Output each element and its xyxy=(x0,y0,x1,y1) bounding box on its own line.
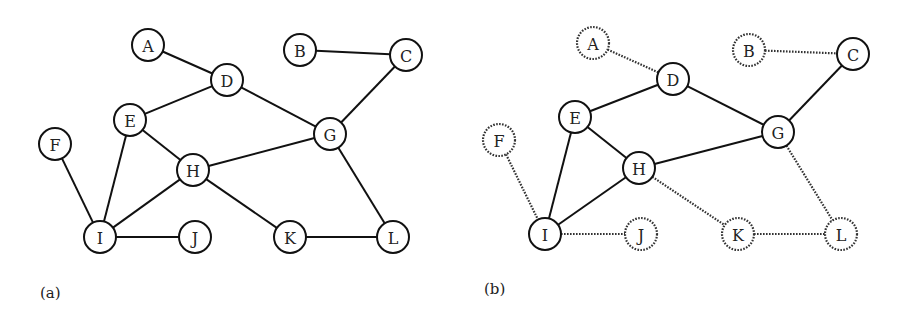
edge-E-H xyxy=(588,127,627,158)
node-C: C xyxy=(390,39,422,71)
node-K: K xyxy=(722,218,754,250)
edge-G-H xyxy=(654,136,762,164)
edge-B-C xyxy=(765,51,837,54)
svg-text:B: B xyxy=(743,42,755,61)
node-D: D xyxy=(657,63,689,95)
svg-text:E: E xyxy=(569,109,581,128)
edge-H-I xyxy=(558,177,626,225)
panel-label-b: (b) xyxy=(484,280,505,298)
svg-text:J: J xyxy=(190,229,198,248)
edge-D-E xyxy=(145,86,212,114)
svg-text:C: C xyxy=(847,46,859,65)
node-I: I xyxy=(84,221,116,253)
svg-text:H: H xyxy=(632,160,646,179)
edge-G-H xyxy=(208,138,314,166)
node-L: L xyxy=(377,221,409,253)
edge-H-I xyxy=(113,179,180,227)
node-F: F xyxy=(483,124,515,156)
svg-text:G: G xyxy=(324,126,337,145)
node-H: H xyxy=(623,152,655,184)
node-E: E xyxy=(114,104,146,136)
svg-text:E: E xyxy=(124,112,136,131)
node-F: F xyxy=(39,128,71,160)
edge-E-I xyxy=(549,132,571,218)
edge-F-I xyxy=(506,154,538,219)
node-G: G xyxy=(762,116,794,148)
edge-E-I xyxy=(104,135,126,221)
node-H: H xyxy=(177,154,209,186)
edge-E-H xyxy=(143,130,181,160)
edge-D-G xyxy=(687,86,763,125)
node-B: B xyxy=(284,34,316,66)
node-C: C xyxy=(837,38,869,70)
svg-text:J: J xyxy=(636,226,644,245)
panel-a: ABCDEFGHIJKL xyxy=(39,29,422,253)
svg-text:K: K xyxy=(732,226,745,245)
edge-A-D xyxy=(608,50,659,73)
node-A: A xyxy=(577,27,609,59)
svg-text:D: D xyxy=(667,71,680,90)
edge-C-G xyxy=(789,66,842,121)
node-G: G xyxy=(314,118,346,150)
node-J: J xyxy=(625,218,657,250)
edge-B-C xyxy=(316,51,390,54)
edge-H-K xyxy=(206,179,277,228)
node-E: E xyxy=(559,101,591,133)
svg-text:G: G xyxy=(772,124,785,143)
edge-C-G xyxy=(341,67,395,123)
edge-D-G xyxy=(241,87,316,126)
node-I: I xyxy=(529,218,561,250)
edge-F-I xyxy=(62,158,93,222)
edge-D-E xyxy=(590,85,658,111)
svg-text:D: D xyxy=(221,72,234,91)
edge-G-L xyxy=(786,146,832,221)
svg-text:A: A xyxy=(586,35,599,54)
node-A: A xyxy=(132,29,164,61)
svg-text:F: F xyxy=(493,132,504,151)
graph-diagram: ABCDEFGHIJKLABCDEFGHIJKL xyxy=(0,0,904,318)
svg-text:L: L xyxy=(836,226,847,245)
svg-text:I: I xyxy=(97,229,103,248)
panel-b: ABCDEFGHIJKL xyxy=(483,27,869,250)
panel-label-a: (a) xyxy=(40,284,61,302)
svg-text:F: F xyxy=(49,136,60,155)
edge-A-D xyxy=(163,51,213,73)
svg-text:H: H xyxy=(186,162,200,181)
node-L: L xyxy=(825,218,857,250)
svg-text:C: C xyxy=(400,47,412,66)
node-B: B xyxy=(733,34,765,66)
svg-text:K: K xyxy=(284,229,297,248)
edge-G-L xyxy=(338,148,384,224)
svg-text:A: A xyxy=(141,37,154,56)
node-J: J xyxy=(179,221,211,253)
node-D: D xyxy=(211,64,243,96)
edge-H-K xyxy=(652,177,724,225)
node-K: K xyxy=(274,221,306,253)
svg-text:I: I xyxy=(542,226,548,245)
svg-text:B: B xyxy=(294,42,306,61)
svg-text:L: L xyxy=(388,229,399,248)
